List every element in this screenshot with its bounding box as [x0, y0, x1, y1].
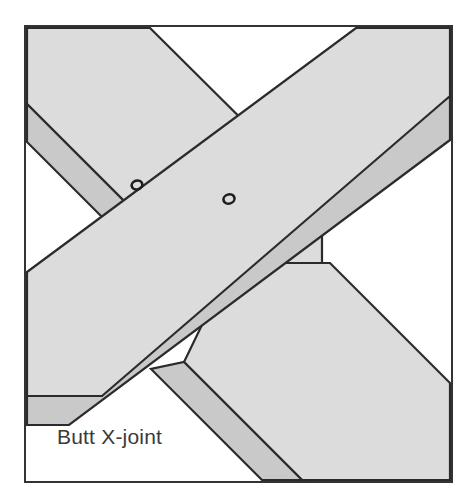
figure-caption: Butt X-joint [57, 425, 162, 448]
joint-diagram-figure: Butt X-joint [0, 0, 457, 499]
joint-diagram-canvas: Butt X-joint [0, 0, 457, 499]
